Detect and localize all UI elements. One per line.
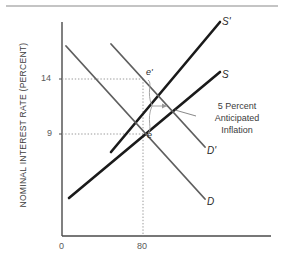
equilibrium-point-label-e: e	[147, 131, 152, 140]
curve-label-s-prime: S'	[222, 17, 231, 27]
curve-label-s: S	[222, 70, 229, 80]
y-tick-label-9: 9	[47, 129, 52, 138]
inflation-annotation-line-1: 5 Percent	[196, 100, 278, 112]
y-axis-title: NOMINAL INTEREST RATE (PERCENT)	[18, 25, 28, 225]
curve-label-d: D	[207, 197, 214, 207]
curve-label-d-prime: D'	[207, 146, 216, 156]
economics-figure: NOMINAL INTEREST RATE (PERCENT) 14 9 0 8…	[0, 0, 284, 266]
inflation-annotation: 5 Percent Anticipated Inflation	[196, 100, 278, 136]
annotation-leader-line	[175, 110, 196, 116]
inflation-annotation-line-2: Anticipated	[196, 112, 278, 124]
x-tick-label-80: 80	[137, 242, 147, 251]
x-tick-label-0: 0	[59, 242, 64, 251]
equilibrium-point-label-e-prime: e'	[146, 68, 153, 77]
demand-curve-d	[66, 46, 205, 199]
y-tick-label-14: 14	[41, 74, 51, 83]
inflation-annotation-line-3: Inflation	[196, 124, 278, 136]
